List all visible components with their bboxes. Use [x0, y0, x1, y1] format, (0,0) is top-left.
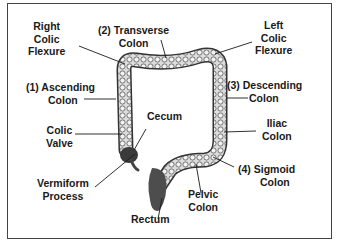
label-right-colic-flexure: Right Colic Flexure — [28, 20, 65, 58]
label-line: (3) Descending — [227, 79, 302, 92]
label-line: Colon — [98, 37, 169, 50]
label-cecum: Cecum — [147, 110, 182, 123]
label-line: Pelvic — [188, 188, 218, 201]
label-pelvic-colon: Pelvic Colon — [188, 188, 218, 213]
label-line: Left — [255, 19, 292, 32]
label-line: Colic — [46, 124, 73, 137]
label-vermiform-process: Vermiform Process — [37, 177, 89, 202]
label-line: Colon — [26, 94, 95, 107]
label-line: (2) Transverse — [98, 24, 169, 37]
cecum-shape — [120, 147, 138, 163]
label-line: Vermiform — [37, 177, 89, 190]
label-left-colic-flexure: Left Colic Flexure — [255, 19, 292, 57]
label-line: (4) Sigmoid — [238, 163, 295, 176]
label-descending-colon: (3) Descending Colon — [227, 79, 302, 104]
label-line: Valve — [46, 137, 73, 150]
label-line: Flexure — [28, 45, 65, 58]
label-line: Flexure — [255, 44, 292, 57]
label-colic-valve: Colic Valve — [46, 124, 73, 149]
label-line: Cecum — [147, 110, 182, 123]
label-rectum: Rectum — [131, 213, 170, 226]
label-line: Colic — [28, 33, 65, 46]
rectum-shape — [148, 168, 166, 211]
label-iliac-colon: Iliac Colon — [262, 117, 292, 142]
label-ascending-colon: (1) Ascending Colon — [26, 81, 95, 106]
label-sigmoid-colon: (4) Sigmoid Colon — [238, 163, 295, 188]
label-line: Colon — [227, 92, 302, 105]
label-line: Rectum — [131, 213, 170, 226]
label-line: Iliac — [262, 117, 292, 130]
label-line: Colon — [262, 130, 292, 143]
label-line: (1) Ascending — [26, 81, 95, 94]
label-line: Process — [37, 190, 89, 203]
label-line: Colon — [188, 201, 218, 214]
label-line: Right — [28, 20, 65, 33]
label-line: Colic — [255, 32, 292, 45]
label-line: Colon — [238, 176, 295, 189]
label-transverse-colon: (2) Transverse Colon — [98, 24, 169, 49]
appendix-shape — [131, 160, 138, 170]
